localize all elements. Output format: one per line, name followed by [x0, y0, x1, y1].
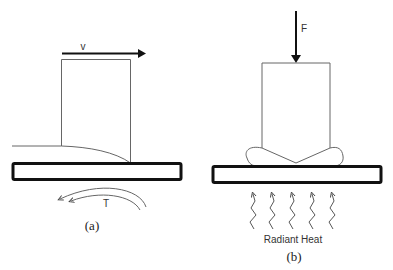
force-label: F [301, 23, 307, 34]
radiant-heat-arrows-icon [250, 194, 335, 229]
substrate-plate-b [213, 167, 381, 183]
panel-b: F Radiant Heat (b) [213, 11, 381, 264]
torque-label: T [103, 198, 109, 209]
radiant-heat-label: Radiant Heat [264, 234, 323, 245]
caption-a: (a) [85, 218, 99, 233]
velocity-arrow-icon [62, 49, 146, 58]
tool-block-a [62, 60, 131, 164]
deposit-profile [12, 146, 131, 163]
flash-bulge [246, 147, 343, 166]
caption-b: (b) [286, 249, 301, 264]
diagram-canvas: v T (a) [0, 0, 393, 270]
substrate-plate-a [13, 164, 181, 180]
force-arrow-icon [291, 11, 301, 63]
tool-block-b [262, 63, 330, 148]
panel-a: v T (a) [12, 41, 181, 233]
velocity-label: v [81, 41, 86, 52]
